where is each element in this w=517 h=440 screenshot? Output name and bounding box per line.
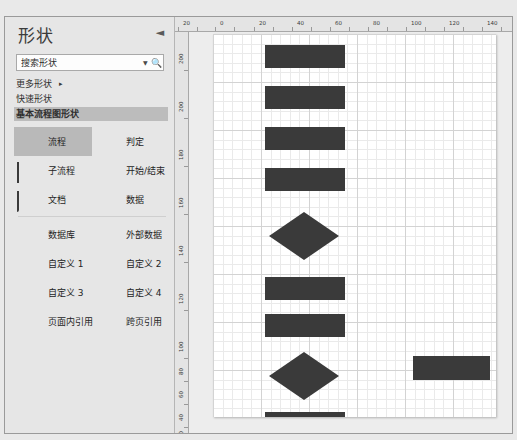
shape-stencil-grid: 流程 判定 子流程 开始/结束 [14,127,170,336]
search-shapes-row[interactable]: ▼ 🔍 [16,54,164,71]
ruler-tick-mark [184,166,188,167]
ruler-tick-label: 80 [373,20,380,26]
ruler-tick-label: 120 [449,20,460,26]
diamond-fill [269,212,339,260]
chevron-down-icon[interactable]: ▼ [141,59,149,66]
ruler-tick-mark [184,70,188,71]
external-data-icon [95,227,121,243]
page-title: 形状 [18,22,54,47]
ruler-tick-label: 20 [259,20,266,26]
ruler-tick-label: 20 [183,20,190,26]
shapes-panel-header: 形状 ◄ [5,17,175,51]
diamond-fill [269,352,339,400]
drawing-canvas-area[interactable]: 20020406080100120140160180200 2002001801… [175,17,512,433]
drawing-page[interactable] [213,34,496,417]
ruler-tick-mark [184,310,188,311]
shape-item-document[interactable]: 文档 [14,185,92,214]
shape-item-database-label: 数据库 [48,228,75,241]
ruler-tick-mark [349,27,350,31]
shape-item-custom-3-label: 自定义 3 [48,286,84,299]
ruler-tick-label: 200 [178,102,184,113]
ruler-tick-label: 40 [178,414,184,421]
ruler-tick-label: 100 [178,342,184,353]
shape-item-custom-2[interactable]: 自定义 2 [92,249,170,278]
ruler-tick-label: 40 [297,20,304,26]
shape-item-custom-2-label: 自定义 2 [126,257,162,270]
vertical-ruler[interactable]: 20020018016014012010080604020 [175,32,189,433]
shape-item-start-end-label: 开始/结束 [126,164,165,177]
ruler-tick-mark [184,118,188,119]
shape-item-off-page-reference[interactable]: 跨页引用 [92,307,170,336]
ruler-tick-mark [254,27,255,31]
custom2-icon [95,256,121,272]
process-rect-side[interactable] [413,356,490,380]
process-rect-6[interactable] [265,314,345,337]
ruler-tick-mark [482,27,483,31]
ruler-tick-mark [184,358,188,359]
ruler-tick-label: 120 [178,294,184,305]
ruler-tick-mark [501,27,502,31]
shape-row: 页面内引用 跨页引用 [14,307,170,336]
ruler-tick-mark [463,27,464,31]
shape-item-external-data-label: 外部数据 [126,228,162,241]
document-icon [17,192,43,208]
process-rect-2[interactable] [265,86,345,109]
shape-item-process[interactable]: 流程 [14,127,92,156]
ruler-tick-mark [178,27,179,31]
database-icon [17,227,43,243]
menu-item-basic-flowchart-shapes-label: 基本流程图形状 [16,109,79,119]
menu-item-more-shapes[interactable]: 更多形状 ▸ [16,78,164,91]
process-rect-5[interactable] [265,277,345,300]
chevron-right-icon: ▸ [59,78,63,91]
shape-item-start-end[interactable]: 开始/结束 [92,156,170,185]
ruler-tick-mark [311,27,312,31]
visio-shapes-window: 形状 ◄ ▼ 🔍 更多形状 ▸ 快速形状 基本流程图形状 流程 [0,0,517,440]
ruler-tick-label: 20 [178,431,184,433]
ruler-tick-mark [184,214,188,215]
magnifier-icon[interactable]: 🔍 [149,58,163,68]
process-rect-4[interactable] [265,168,345,191]
parallelogram-data-icon [95,192,121,208]
ruler-tick-mark [425,27,426,31]
shape-item-database[interactable]: 数据库 [14,220,92,249]
ruler-tick-mark [184,427,188,428]
ruler-tick-mark [184,262,188,263]
shape-item-decision-label: 判定 [126,135,144,148]
shape-item-data[interactable]: 数据 [92,185,170,214]
shape-item-external-data[interactable]: 外部数据 [92,220,170,249]
shapes-panel: 形状 ◄ ▼ 🔍 更多形状 ▸ 快速形状 基本流程图形状 流程 [5,17,175,433]
shape-item-custom-4[interactable]: 自定义 4 [92,278,170,307]
shape-item-decision[interactable]: 判定 [92,127,170,156]
shape-item-subprocess-label: 子流程 [48,164,75,177]
ruler-tick-label: 80 [178,368,184,375]
ruler-tick-label: 100 [411,20,422,26]
menu-item-quick-shapes[interactable]: 快速形状 [16,93,164,106]
ruler-tick-label: 60 [335,20,342,26]
ruler-tick-mark [368,27,369,31]
process-rect-1[interactable] [265,45,345,68]
decision-diamond-1[interactable] [269,212,339,260]
horizontal-ruler[interactable]: 20020406080100120140160180200 [175,17,512,32]
process-rect-7[interactable] [265,412,345,417]
shape-item-custom-1-label: 自定义 1 [48,257,84,270]
off-page-reference-icon [95,314,121,330]
menu-item-basic-flowchart-shapes[interactable]: 基本流程图形状 [14,107,168,121]
ruler-tick-mark [406,27,407,31]
ruler-tick-mark [184,381,188,382]
shape-item-custom-1[interactable]: 自定义 1 [14,249,92,278]
ruler-tick-mark [387,27,388,31]
ruler-tick-mark [215,27,216,31]
search-input[interactable] [17,58,141,68]
shape-item-subprocess[interactable]: 子流程 [14,156,92,185]
shape-item-off-page-reference-label: 跨页引用 [126,315,162,328]
shape-item-on-page-reference[interactable]: 页面内引用 [14,307,92,336]
shape-row: 数据库 外部数据 [14,220,170,249]
decision-diamond-2[interactable] [269,352,339,400]
shape-item-custom-3[interactable]: 自定义 3 [14,278,92,307]
ruler-tick-mark [184,404,188,405]
chevron-left-icon[interactable]: ◄ [154,27,166,39]
custom4-icon [95,285,121,301]
process-rect-3[interactable] [265,127,345,150]
shape-item-process-label: 流程 [48,135,66,148]
subprocess-icon [17,163,43,179]
